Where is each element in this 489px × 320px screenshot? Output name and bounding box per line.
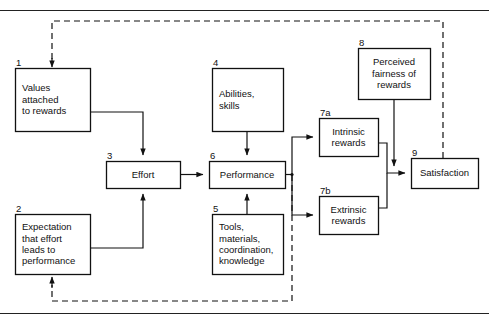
node-text-1-line-1: attached [22,94,58,105]
node-text-7a-line-1: rewards [332,137,366,148]
node-text-4-line-0: Abilities, [219,88,254,99]
edge-intrinsic-to-satisfaction [378,143,405,173]
node-text-7b-line-0: Extrinsic [331,204,367,215]
edge-performance-to-intrinsic [292,137,313,175]
edge-values-to-effort [90,112,143,155]
node-box-4[interactable]: 4Abilities,skills [213,57,284,132]
node-box-2[interactable]: 2Expectationthat effortleads toperforman… [16,203,91,275]
node-box-5[interactable]: 5Tools,materials,coordination,knowledge [213,203,284,275]
node-box-7a[interactable]: 7aIntrinsicrewards [320,107,379,157]
diagram-canvas: 1Valuesattachedto rewards2Expectationtha… [0,0,489,320]
node-text-2-line-3: performance [22,255,75,266]
node-number-7b: 7b [320,185,331,196]
node-number-7a: 7a [320,107,331,118]
edge-extrinsic-to-satisfaction [378,173,387,208]
node-text-8-line-1: fairness of [372,68,416,79]
node-box-9[interactable]: 9Satisfaction [412,147,479,189]
node-text-5-line-0: Tools, [219,221,244,232]
node-box-3[interactable]: 3Effort [107,150,181,189]
node-text-8-line-2: rewards [377,79,411,90]
node-text-5-line-2: coordination, [219,244,273,255]
node-number-4: 4 [213,57,218,68]
node-text-3-line-0: Effort [132,169,155,180]
node-text-1-line-0: Values [22,82,51,93]
node-box-8[interactable]: 8Perceivedfairness ofrewards [359,37,431,100]
node-box-1[interactable]: 1Valuesattachedto rewards [16,57,91,132]
node-text-9-line-0: Satisfaction [420,167,469,178]
edge-performance-to-extrinsic [292,175,313,216]
node-number-3: 3 [107,150,112,161]
node-text-7a-line-0: Intrinsic [332,126,365,137]
node-text-2-line-2: leads to [22,244,55,255]
node-number-1: 1 [16,57,21,68]
node-text-2-line-1: that effort [22,233,62,244]
node-text-4-line-1: skills [219,100,240,111]
edge-expectation-to-effort [90,194,143,248]
node-box-6[interactable]: 6Performance [210,150,286,189]
node-box-7b[interactable]: 7bExtrinsicrewards [320,185,379,235]
flow-diagram: 1Valuesattachedto rewards2Expectationtha… [0,0,489,320]
node-text-5-line-3: knowledge [219,255,264,266]
box-layer: 1Valuesattachedto rewards2Expectationtha… [16,37,479,275]
node-number-8: 8 [359,37,364,48]
node-text-5-line-1: materials, [219,233,260,244]
node-text-6-line-0: Performance [220,169,274,180]
node-text-8-line-0: Perceived [373,56,415,67]
node-text-1-line-2: to rewards [22,105,67,116]
node-text-7b-line-1: rewards [332,215,366,226]
node-text-2-line-0: Expectation [22,221,72,232]
node-number-9: 9 [412,147,417,158]
node-number-5: 5 [213,203,218,214]
node-number-6: 6 [210,150,215,161]
node-number-2: 2 [16,203,21,214]
